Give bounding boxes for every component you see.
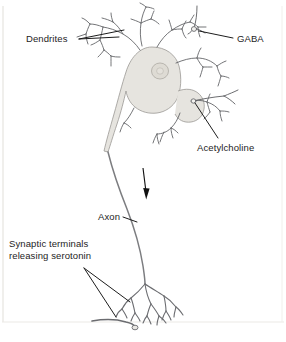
label-gaba: GABA <box>237 33 264 45</box>
label-dendrites: Dendrites <box>26 33 68 45</box>
leader-line-acetylcholine <box>195 103 218 138</box>
neuron-diagram-figure: Dendrites GABA Acetylcholine Axon Synapt… <box>0 0 286 342</box>
leader-line-gaba <box>199 31 233 38</box>
synaptic-terminal-branches <box>116 284 183 325</box>
signal-direction-arrow <box>143 168 150 200</box>
label-acetylcholine: Acetylcholine <box>197 142 254 154</box>
label-synaptic-terminals: Synaptic terminals releasing serotonin <box>9 238 91 261</box>
soma-body <box>104 47 204 152</box>
leader-line-synaptic-terminals <box>84 268 130 317</box>
label-axon: Axon <box>98 211 120 223</box>
neuron-illustration <box>0 0 286 342</box>
